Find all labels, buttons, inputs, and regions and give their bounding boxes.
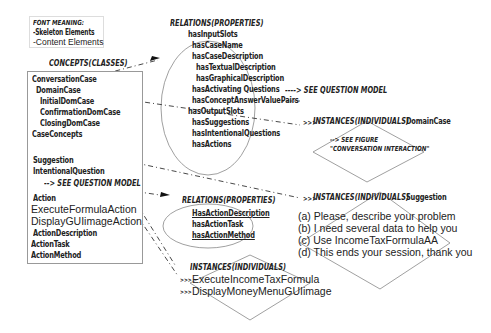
relation-hasconceptanswervaluepairs: hasConceptAnswerValuePairs [192, 95, 299, 105]
suggestion-instances-heading: INSTANCES(INDIVIDUALS) [313, 192, 409, 202]
domain-instances-label: DomainCase [406, 116, 451, 126]
suggestion-d: (d) This ends your session, thank you [298, 246, 472, 258]
concepts-heading: CONCEPTS(CLASSES) [49, 58, 128, 68]
concept-initialdomcase: InitialDomCase [40, 96, 94, 106]
suggestion-a: (a) Please, describe your problem [298, 210, 456, 222]
suggestion-c: (c) Use IncomeTaxFormulaAA [298, 234, 438, 246]
legend-content: -Content Elements [33, 37, 103, 47]
relation-hasoutputslots: hasOutputSlots [188, 106, 244, 116]
relation-hassuggestions: hasSuggestions [192, 117, 249, 127]
suggestion-b: (b) I need several data to help you [298, 222, 457, 234]
domain-note-line1: --> SEE FIGURE [330, 136, 378, 144]
relation-hasactiondescription: HasActionDescription [192, 208, 269, 218]
action-instances-heading: INSTANCES(INDIVIDUALS) [190, 262, 286, 272]
suggestion-instances-label: Suggestion [406, 192, 447, 202]
relation-hasactivatingquestions: hasActivating Questions [192, 84, 279, 94]
concept-displayguiimageaction: DisplayGUIimageAction [31, 215, 142, 227]
action-arrow-1: >>> [180, 276, 192, 283]
concept-actionmethod: ActionMethod [31, 250, 81, 260]
relation-hasinputslots: hasInputSlots [188, 29, 238, 39]
legend-skeleton: -Skeleton Elements [33, 28, 94, 37]
action-instance-executeincometaxformula: ExecuteIncomeTaxFormula [192, 273, 319, 285]
concept-actiontask: ActionTask [31, 239, 70, 249]
legend-title: FONT MEANING: [33, 19, 84, 27]
action-relations-heading: RELATIONS(PROPERTIES) [182, 195, 275, 205]
domain-instances-heading: INSTANCES(INDIVIDUALS) [313, 116, 409, 126]
action-instance-displaymoneymenuguiimage: DisplayMoneyMenuGUIimage [192, 285, 331, 297]
relation-hasgraphicaldescription: hasGraphicalDescription [196, 73, 284, 83]
action-arrow-2: >>> [180, 288, 192, 295]
concept-conversationcase: ConversationCase [32, 74, 97, 84]
relation-hascasename: hasCaseName [192, 40, 243, 50]
concept-suggestion: Suggestion [33, 155, 74, 165]
relation-hascasedescription: hasCaseDescription [192, 51, 263, 61]
relation-hasactions: hasActions [192, 139, 231, 149]
relations-heading: RELATIONS(PROPERTIES) [170, 18, 263, 28]
concept-see-question-model: --> SEE QUESTION MODEL [44, 178, 141, 188]
concept-caseconcepts: CaseConcepts [32, 129, 82, 139]
concept-intentionalquestion: IntentionalQuestion [33, 166, 105, 176]
relation-hastextualdescription: hasTextualDescription [196, 62, 276, 72]
concept-closingdomcase: ClosingDomCase [40, 118, 100, 128]
concept-executeformulaaction: ExecuteFormulaAction [31, 203, 137, 215]
domain-note-line2: "CONVERSATION INTERACTION" [330, 145, 429, 153]
relations-see-question-model: ----> SEE QUESTION MODEL [285, 85, 387, 95]
concept-actiondescription: ActionDescription [33, 228, 97, 238]
relation-hasactionmethod: hasActionMethod [192, 230, 255, 240]
relation-hasintentionalquestions: hasIntentionalQuestions [192, 128, 280, 138]
concept-domaincase: DomainCase [36, 85, 81, 95]
relation-hasactiontask: hasActionTask [192, 219, 243, 229]
concept-confirmationdomcase: ConfirmationDomCase [40, 107, 120, 117]
concept-action: Action [33, 193, 56, 203]
